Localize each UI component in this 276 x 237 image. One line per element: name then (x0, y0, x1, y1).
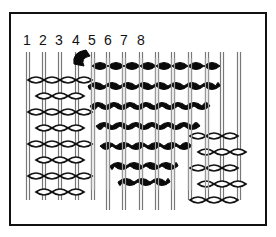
light-weft-left (28, 77, 92, 195)
weave-illustration (0, 0, 276, 237)
